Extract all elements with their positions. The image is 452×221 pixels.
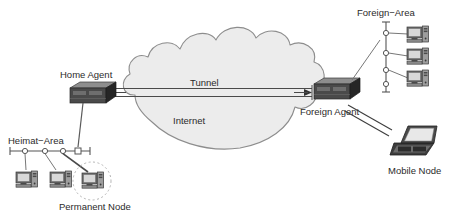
tunnel-label: Tunnel: [190, 77, 219, 88]
heimat-area-segment: Heimat−Area: [8, 135, 131, 212]
laptop-icon: [390, 126, 437, 155]
mobile-node-label: Mobile Node: [388, 165, 441, 176]
foreign-area-segment: Foreign−Area: [357, 7, 429, 92]
foreign-area-label: Foreign−Area: [357, 7, 416, 18]
bus-tap: [22, 148, 27, 153]
mobile-node[interactable]: Mobile Node: [388, 126, 441, 176]
foreign-host[interactable]: [407, 70, 429, 86]
bus-router-tap: [75, 148, 81, 154]
foreign-agent-to-foreign-area-link: [352, 40, 380, 80]
router-icon: [314, 78, 360, 99]
bus-tap: [42, 148, 47, 153]
foreign-host[interactable]: [407, 48, 429, 64]
bus-tap: [60, 148, 65, 153]
router-icon: [70, 82, 116, 103]
internet-label: Internet: [173, 115, 206, 126]
home-agent-to-heimat-link: [78, 103, 83, 147]
bus-tap: [383, 67, 388, 72]
permanent-node[interactable]: [82, 172, 104, 188]
heimat-host[interactable]: [50, 171, 72, 187]
heimat-host[interactable]: [16, 171, 38, 187]
heimat-area-label: Heimat−Area: [8, 135, 64, 146]
permanent-node-label: Permanent Node: [59, 201, 131, 212]
home-agent-label: Home Agent: [60, 69, 113, 80]
bus-tap: [383, 81, 388, 86]
foreign-agent-label: Foreign Agent: [300, 106, 360, 117]
bus-tap: [383, 50, 388, 55]
diagram-canvas: Internet Tunnel Home Agent Heimat−: [0, 0, 452, 221]
network-diagram: Internet Tunnel Home Agent Heimat−: [0, 0, 452, 221]
home-agent-node[interactable]: Home Agent: [60, 69, 116, 103]
bus-tap: [383, 30, 388, 35]
foreign-host[interactable]: [407, 26, 429, 42]
